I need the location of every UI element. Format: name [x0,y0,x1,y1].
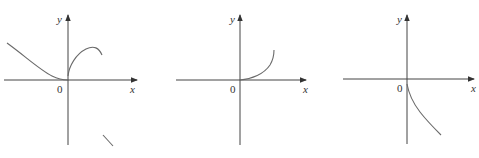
curve-right-branch [68,47,102,76]
graph-panel-3: y x 0 [343,13,476,144]
curve [240,50,274,80]
curve [407,84,441,135]
y-axis-label: y [56,13,62,25]
y-axis-label: y [396,13,402,25]
origin-label: 0 [57,83,63,95]
stray-segment [103,135,113,146]
x-axis-label: x [129,83,135,95]
graph-panel-2: y x 0 [176,13,308,145]
x-axis-label: x [470,82,476,94]
y-axis-label: y [229,13,235,25]
curve-left-branch [7,43,68,80]
origin-label: 0 [230,83,236,95]
origin-label: 0 [397,82,403,94]
function-graphs-figure: y x 0 y x 0 y x 0 [0,0,479,158]
graph-panel-1: y x 0 [4,13,137,146]
x-axis-label: x [302,83,308,95]
